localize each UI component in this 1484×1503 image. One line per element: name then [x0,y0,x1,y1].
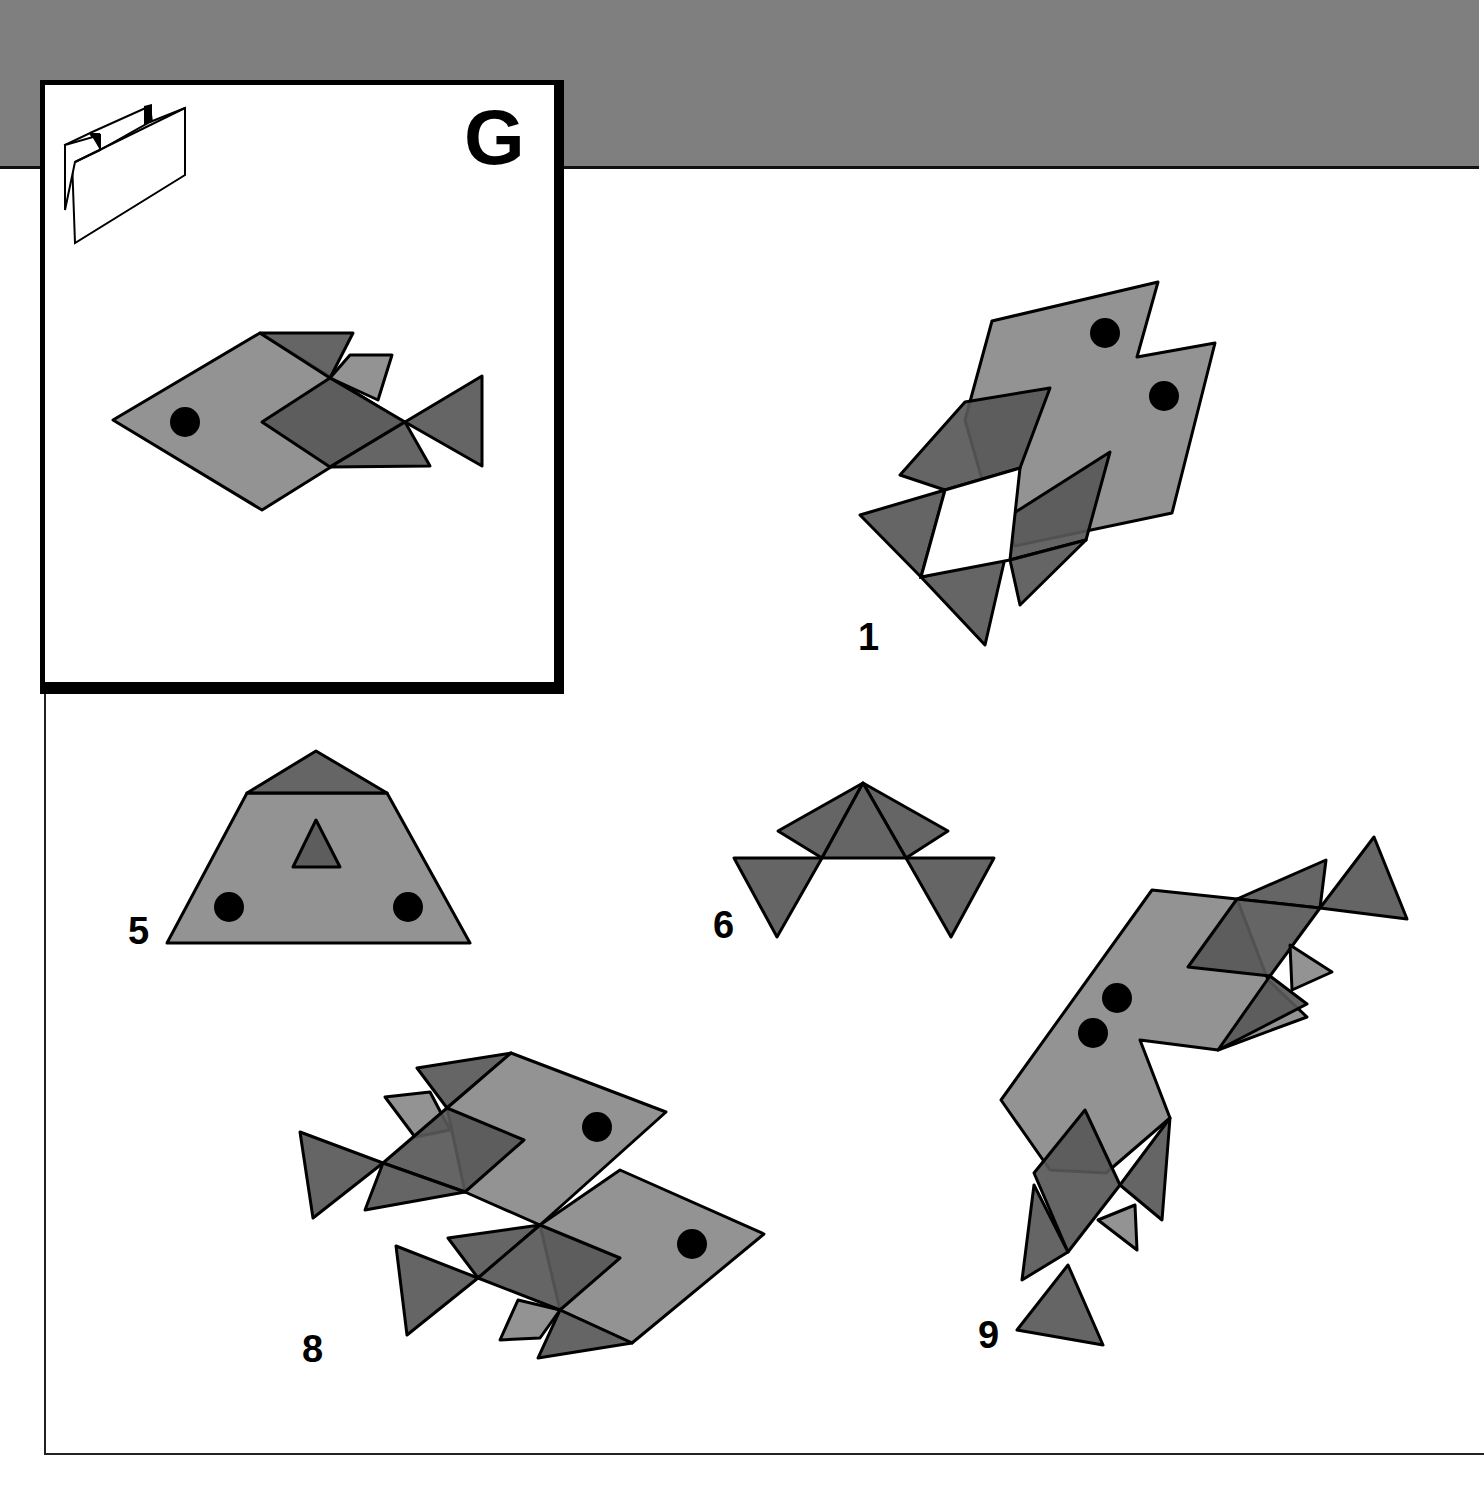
eye-dot [677,1229,707,1259]
figure-number-label: 6 [713,906,734,944]
eye-dot [1078,1018,1108,1048]
eye-dot [170,407,200,437]
figure-fig-9 [1001,837,1407,1345]
tangram-piece-dark [906,858,994,937]
figure-number-label: 8 [302,1330,323,1368]
eye-dot [1102,983,1132,1013]
figure-number-label: 5 [128,912,149,950]
figure-fig-5 [167,751,470,943]
tangram-piece-dark [247,751,387,793]
figure-fig-8 [300,1053,764,1358]
tangram-piece-light [1098,1205,1137,1250]
figure-fig-1 [860,282,1215,645]
figure-number-label: 1 [858,618,879,656]
eye-dot [214,892,244,922]
eye-dot [582,1112,612,1142]
eye-dot [393,892,423,922]
tangram-piece-light [1290,945,1332,990]
figure-model [113,333,482,510]
tangram-piece-dark [734,858,822,937]
eye-dot [1090,318,1120,348]
figure-number-label: 9 [978,1316,999,1354]
tangram-piece-dark [1017,1265,1103,1345]
eye-dot [1149,381,1179,411]
tangram-piece-dark [1320,837,1407,919]
figure-fig-6 [734,783,994,937]
